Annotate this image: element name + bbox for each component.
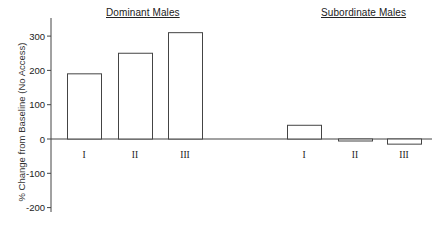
x-category-label: III [180, 150, 190, 160]
y-tick-label: 200 [29, 65, 45, 76]
y-tick-label: -200 [26, 202, 45, 213]
x-category-label: I [82, 150, 85, 160]
x-category-label: II [132, 150, 138, 160]
x-category-label: III [399, 150, 409, 160]
bar-dominant-I [68, 74, 102, 139]
y-tick-label: -100 [26, 168, 45, 179]
y-tick-label: 100 [29, 99, 45, 110]
bar-subordinate-III [388, 139, 422, 144]
bar-dominant-III [169, 33, 203, 139]
x-category-label: I [302, 150, 305, 160]
y-tick-label: 0 [40, 134, 45, 145]
bar-subordinate-I [288, 125, 322, 139]
y-tick-label: 300 [29, 31, 45, 42]
x-category-label: II [352, 150, 358, 160]
bar-subordinate-II [339, 139, 373, 141]
plot-area: 3002001000-100-200IIIIIIIIIIII [0, 0, 440, 227]
bar-dominant-II [119, 53, 153, 139]
